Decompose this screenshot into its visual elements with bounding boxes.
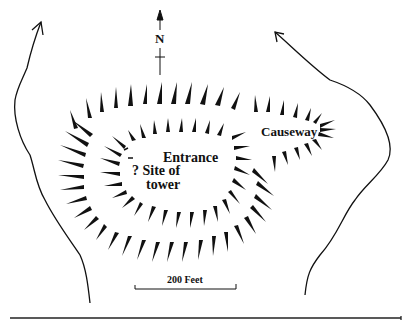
outer-bank-hachures (58, 82, 336, 262)
causeway-label: Causeway (261, 125, 317, 138)
north-label: N (155, 32, 164, 45)
scale-bar-label: 200 Feet (167, 275, 203, 285)
entrance-dashes (124, 148, 133, 158)
bottom-border (10, 316, 401, 320)
tower-label: tower (146, 178, 180, 192)
site-of-tower-label: ? Site of (132, 164, 180, 178)
left-boundary-line (15, 22, 90, 303)
right-boundary-line (275, 32, 390, 295)
